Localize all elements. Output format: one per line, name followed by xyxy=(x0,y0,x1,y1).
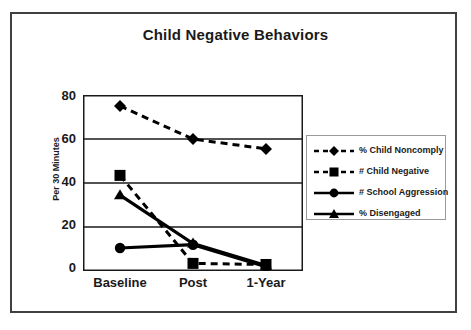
chart-figure-frame: Child Negative Behaviors Per 30 Minutes … xyxy=(10,12,457,313)
legend-item-child-noncomply: % Child Noncomply xyxy=(307,142,447,160)
x-axis-ticks: Baseline Post 1-Year xyxy=(83,276,303,300)
legend-label-child-negative: # Child Negative xyxy=(359,166,429,176)
chart-legend: % Child Noncomply # Child Negative # Sch… xyxy=(306,135,446,220)
y-tick-80: 80 xyxy=(46,89,76,102)
x-tick-1-year: 1-Year xyxy=(221,276,311,289)
y-tick-60: 60 xyxy=(46,132,76,145)
y-tick-0: 0 xyxy=(46,261,76,274)
plot-svg xyxy=(83,95,303,271)
series-disengaged xyxy=(114,189,272,269)
legend-label-child-noncomply: % Child Noncomply xyxy=(359,145,444,155)
y-axis-ticks: Per 30 Minutes 80 60 40 20 0 xyxy=(40,14,76,315)
y-tick-40: 40 xyxy=(46,175,76,188)
square-marker-icon xyxy=(313,163,355,181)
legend-label-disengaged: % Disengaged xyxy=(359,208,421,218)
chart-title: Child Negative Behaviors xyxy=(12,26,459,43)
circle-marker-icon xyxy=(313,184,355,202)
legend-item-disengaged: % Disengaged xyxy=(307,205,447,223)
series-child-negative xyxy=(115,170,272,270)
series-child-noncomply xyxy=(114,100,272,155)
diamond-marker-icon xyxy=(313,142,355,160)
plot-area xyxy=(83,95,303,271)
triangle-marker-icon xyxy=(313,205,355,223)
legend-item-school-aggression: # School Aggression xyxy=(307,184,447,202)
y-tick-20: 20 xyxy=(46,218,76,231)
legend-item-child-negative: # Child Negative xyxy=(307,163,447,181)
legend-label-school-aggression: # School Aggression xyxy=(359,187,448,197)
